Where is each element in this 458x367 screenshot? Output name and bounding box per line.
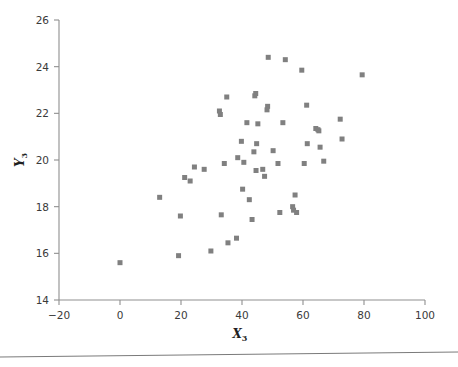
- scatter-point: [294, 210, 299, 215]
- scatter-point: [218, 112, 223, 117]
- x-tick-label: −20: [48, 309, 70, 321]
- scatter-point: [241, 160, 246, 165]
- y-tick-label: 20: [36, 154, 49, 166]
- x-axis-tick-labels: −20020406080100: [48, 309, 435, 321]
- scatter-point: [222, 161, 227, 166]
- scatter-point: [340, 137, 345, 142]
- x-tick-label: 0: [117, 309, 124, 321]
- scatter-point: [302, 161, 307, 166]
- x-tick-label: 40: [235, 309, 248, 321]
- scatter-point: [225, 240, 230, 245]
- y-tick-label: 14: [36, 294, 50, 306]
- scatter-point: [262, 174, 267, 179]
- scatter-point: [280, 120, 285, 125]
- scatter-point: [318, 145, 323, 150]
- x-tick-label: 100: [415, 309, 435, 321]
- scatter-point: [293, 193, 298, 198]
- scatter-point: [255, 121, 260, 126]
- x-axis-title: X3: [232, 327, 248, 343]
- y-tick-label: 24: [36, 61, 50, 73]
- scatter-point: [254, 141, 259, 146]
- scatter-plot-figure: 14161820222426 −20020406080100 Y3 X3: [0, 0, 458, 367]
- scatter-point: [338, 117, 343, 122]
- x-axis-title-subscript: 3: [242, 333, 248, 343]
- scatter-point: [176, 253, 181, 258]
- y-axis-title: Y3: [13, 153, 29, 168]
- scatter-point: [224, 95, 229, 100]
- x-tick-label: 80: [357, 309, 370, 321]
- footer-divider: [0, 352, 458, 357]
- scatter-point: [277, 210, 282, 215]
- y-axis-tick-labels: 14161820222426: [36, 14, 50, 306]
- scatter-point: [239, 139, 244, 144]
- scatter-point: [321, 159, 326, 164]
- scatter-point: [275, 161, 280, 166]
- x-tick-label: 20: [174, 309, 187, 321]
- scatter-point: [192, 165, 197, 170]
- y-tick-label: 18: [36, 201, 49, 213]
- scatter-point: [305, 141, 310, 146]
- scatter-point: [304, 103, 309, 108]
- scatter-point: [254, 168, 259, 173]
- scatter-point: [266, 55, 271, 60]
- scatter-point: [118, 260, 123, 265]
- scatter-point: [299, 68, 304, 73]
- scatter-point: [157, 195, 162, 200]
- x-axis-tick-marks: [59, 300, 425, 305]
- scatter-point: [250, 217, 255, 222]
- x-tick-label: 60: [296, 309, 309, 321]
- scatter-point: [253, 91, 258, 96]
- scatter-point: [188, 179, 193, 184]
- scatter-point: [240, 187, 245, 192]
- scatter-point: [219, 212, 224, 217]
- svg-text:Y3: Y3: [13, 153, 29, 168]
- scatter-point: [260, 167, 265, 172]
- scatter-point: [283, 57, 288, 62]
- scatter-point: [178, 214, 183, 219]
- scatter-point: [247, 197, 252, 202]
- svg-text:X3: X3: [232, 327, 248, 343]
- plot-canvas: 14161820222426 −20020406080100 Y3 X3: [0, 0, 458, 367]
- scatter-point: [251, 149, 256, 154]
- scatter-point: [265, 104, 270, 109]
- scatter-point: [202, 167, 207, 172]
- scatter-point: [244, 120, 249, 125]
- scatter-point: [235, 155, 240, 160]
- scatter-point-group: [118, 55, 365, 265]
- y-tick-label: 26: [36, 14, 50, 26]
- scatter-point: [182, 175, 187, 180]
- y-axis-tick-marks: [54, 20, 59, 300]
- scatter-point: [208, 249, 213, 254]
- scatter-point: [271, 148, 276, 153]
- y-axis-title-subscript: 3: [19, 153, 29, 159]
- scatter-point: [360, 72, 365, 77]
- scatter-point: [234, 236, 239, 241]
- y-tick-label: 22: [36, 107, 49, 119]
- y-tick-label: 16: [36, 247, 50, 259]
- scatter-point: [316, 128, 321, 133]
